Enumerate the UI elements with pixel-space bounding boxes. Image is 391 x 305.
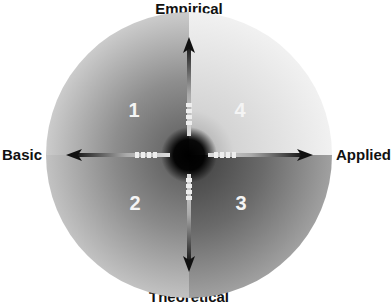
quadrant-1-number: 1 <box>128 99 139 121</box>
quadrant-2-number: 2 <box>129 192 140 214</box>
quadrant-2-bg <box>40 155 189 300</box>
quadrant-3-bg <box>189 155 338 300</box>
quadrant-4-number: 4 <box>234 99 246 121</box>
quadrant-3-number: 3 <box>235 192 246 214</box>
quadrant-1-bg <box>40 10 189 155</box>
quadrant-4-bg <box>189 10 338 155</box>
axis-label-applied: Applied <box>336 146 391 163</box>
